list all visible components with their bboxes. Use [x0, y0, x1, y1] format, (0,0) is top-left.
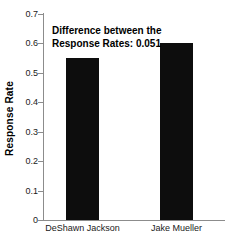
category-label: Jake Mueller [117, 223, 235, 233]
bar [66, 58, 99, 220]
annotation-line-2: Response Rates: 0.051 [52, 37, 161, 50]
difference-annotation: Difference between the Response Rates: 0… [52, 24, 161, 50]
bar-chart: Response Rate 00.10.20.30.40.50.60.7 DeS… [0, 0, 234, 237]
annotation-line-1: Difference between the [52, 24, 161, 37]
bar [160, 43, 193, 220]
